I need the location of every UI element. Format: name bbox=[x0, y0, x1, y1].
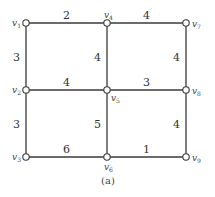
edge-weight-label: 4 bbox=[63, 76, 70, 89]
edge-weight-label: 1 bbox=[143, 143, 150, 156]
node-v2 bbox=[23, 87, 29, 93]
node-v6 bbox=[104, 154, 110, 160]
node-label-v6: v6 bbox=[104, 162, 113, 173]
figure-caption: (a) bbox=[101, 175, 115, 186]
node-label-subscript: 2 bbox=[17, 89, 21, 96]
weighted-graph: 243444335461 v1v4v7v2v5v8v3v6v9 (a) bbox=[0, 0, 215, 197]
node-label-v8: v8 bbox=[192, 86, 201, 97]
node-label-subscript: 7 bbox=[197, 23, 201, 30]
edge-weight-label: 4 bbox=[173, 51, 180, 64]
node-label-v7: v7 bbox=[192, 19, 201, 30]
node-v9 bbox=[183, 154, 189, 160]
node-label-v4: v4 bbox=[104, 10, 113, 21]
node-label-v5: v5 bbox=[111, 93, 120, 104]
node-label-subscript: 9 bbox=[197, 157, 201, 164]
edge-weight-label: 5 bbox=[94, 118, 101, 131]
edge-weight-label: 4 bbox=[143, 9, 150, 22]
node-label-subscript: 3 bbox=[17, 156, 21, 163]
node-label-subscript: 8 bbox=[197, 90, 201, 97]
edge-weight-label: 3 bbox=[13, 51, 20, 64]
node-label-v3: v3 bbox=[12, 152, 21, 163]
node-v8 bbox=[183, 87, 189, 93]
node-label-subscript: 5 bbox=[116, 97, 120, 104]
node-v7 bbox=[183, 20, 189, 26]
node-v1 bbox=[23, 20, 29, 26]
edge-weight-label: 3 bbox=[143, 76, 150, 89]
node-v5 bbox=[104, 87, 110, 93]
edge-weight-label: 2 bbox=[63, 9, 70, 22]
node-label-v2: v2 bbox=[12, 85, 21, 96]
node-v3 bbox=[23, 154, 29, 160]
node-label-subscript: 6 bbox=[109, 166, 113, 173]
node-label-subscript: 4 bbox=[109, 14, 113, 21]
node-label-v1: v1 bbox=[12, 18, 21, 29]
node-label-subscript: 1 bbox=[17, 22, 21, 29]
edge-weight-label: 4 bbox=[173, 118, 180, 131]
edge-weight-label: 4 bbox=[94, 51, 101, 64]
edge-weight-label: 6 bbox=[63, 143, 70, 156]
edge-weights-group: 243444335461 bbox=[13, 9, 180, 156]
node-label-v9: v9 bbox=[192, 153, 201, 164]
edge-weight-label: 3 bbox=[13, 118, 20, 131]
